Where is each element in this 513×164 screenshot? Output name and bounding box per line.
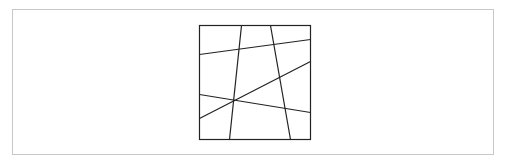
outer-square xyxy=(200,26,311,140)
line-upper-horizontal xyxy=(200,40,311,55)
dividing-lines xyxy=(200,26,311,140)
square-partition-diagram xyxy=(0,0,513,164)
line-left-vertical xyxy=(230,26,242,140)
